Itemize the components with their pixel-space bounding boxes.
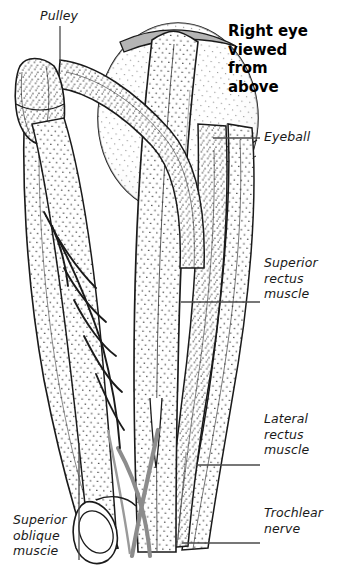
label-lateral-rectus-muscle: Lateral rectus muscle (264, 411, 309, 458)
label-pulley: Pulley (40, 8, 78, 24)
label-trochlear-nerve: Trochlear nerve (264, 505, 323, 536)
eye-anatomy-figure: Right eye viewed from above Pulley Eyeba… (0, 0, 350, 576)
label-superior-oblique-muscle: Superior oblique muscie (13, 512, 67, 559)
label-superior-rectus-muscle: Superior rectus muscle (264, 255, 318, 302)
figure-title: Right eye viewed from above (228, 22, 308, 96)
label-eyeball: Eyeball (264, 129, 310, 145)
